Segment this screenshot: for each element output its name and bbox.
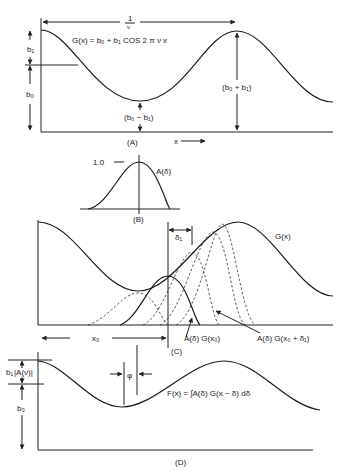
panel-b-label: (B) <box>133 215 144 224</box>
panel-d-equation: F(x) = ∫A(δ) G(x − δ) dδ <box>167 389 251 398</box>
delta1-label: δ₁ <box>175 233 182 242</box>
panel-d: b₁ |A(ν)| b₀ φ F(x) = ∫A(δ) G(x − δ) dδ … <box>6 345 320 467</box>
x-axis-label: x <box>174 137 178 146</box>
a-delta-label: A(δ) <box>156 167 171 176</box>
annot2-pointer <box>216 311 260 333</box>
product-curve-dashed-2 <box>143 252 219 325</box>
panel-a-label: (A) <box>127 138 138 147</box>
panel-c-label: (C) <box>171 347 182 356</box>
min-label: (b₀ − b₁) <box>124 113 154 122</box>
period-numerator: 1 <box>128 14 133 23</box>
b1-label: b₁ <box>27 45 34 54</box>
product-curve-dashed-4 <box>176 224 255 325</box>
x0-label: x₀ <box>92 334 99 343</box>
peak-value-label: 1.0 <box>93 158 105 167</box>
max-label: (b₀ + b₁) <box>222 83 252 92</box>
annot1-label: A(δ) G(x₀) <box>184 334 221 343</box>
panel-b: 1.0 A(δ) (B) <box>80 155 180 224</box>
diagram-canvas: 1 ν G(x) = b₀ + b₁ COS 2 π ν x b₁ b₀ (b₀… <box>0 0 352 473</box>
panel-d-label: (D) <box>175 458 186 467</box>
annot2-label: A(δ) G(x₀ + δ₁) <box>257 334 310 343</box>
b0-label: b₀ <box>26 90 34 99</box>
b0-label-d: b₀ <box>17 404 25 413</box>
phase-label: φ <box>127 371 132 380</box>
f-x-curve <box>38 361 320 410</box>
product-curve-dashed-3 <box>160 232 245 325</box>
a-nu-label: |A(ν)| <box>14 368 33 377</box>
g-x-label: G(x) <box>275 232 291 241</box>
panel-a-equation: G(x) = b₀ + b₁ COS 2 π ν x <box>72 36 167 45</box>
panel-c: δ₁ G(x) x₀ A(δ) G(x₀) A(δ) G(x₀ + δ₁) (C… <box>38 220 333 356</box>
period-denominator: ν <box>127 24 130 30</box>
b1-label-d: b₁ <box>6 368 13 377</box>
panel-a: 1 ν G(x) = b₀ + b₁ COS 2 π ν x b₁ b₀ (b₀… <box>25 14 333 147</box>
